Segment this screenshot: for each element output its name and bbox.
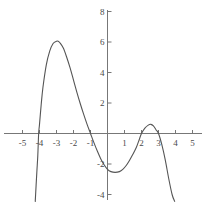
x-tick-label: 1 <box>122 139 127 148</box>
x-tick-label: -4 <box>36 139 44 148</box>
x-tick-label: 2 <box>139 139 144 148</box>
y-tick-label: -4 <box>97 190 105 199</box>
x-tick-label: 5 <box>190 139 195 148</box>
y-tick-label: 6 <box>100 38 105 47</box>
y-tick-label: -2 <box>97 160 105 169</box>
y-tick-label: 2 <box>100 99 105 108</box>
x-tick-label: -3 <box>53 139 61 148</box>
x-tick-label: -2 <box>70 139 78 148</box>
polynomial-curve <box>35 41 174 201</box>
x-tick-label: 3 <box>156 139 161 148</box>
x-tick-label: -5 <box>19 139 27 148</box>
y-axis-tick-marks <box>108 12 112 195</box>
y-tick-label: 4 <box>100 68 105 77</box>
y-tick-label: 8 <box>100 7 105 16</box>
x-tick-label: -1 <box>87 139 95 148</box>
chart-container: -5-4-3-2-112345 8642-2-4 <box>0 0 206 209</box>
x-tick-label: 4 <box>173 139 178 148</box>
